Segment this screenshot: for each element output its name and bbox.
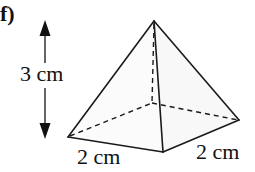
base-right-edge-label: 2 cm <box>196 141 239 163</box>
part-label: f) <box>0 3 15 25</box>
pyramid-figure: f) 3 cm 2 cm 2 cm <box>0 0 255 172</box>
base-front-edge-label: 2 cm <box>77 146 120 168</box>
arrowhead-up-icon <box>40 20 51 36</box>
height-label: 3 cm <box>19 63 64 85</box>
left-face <box>68 21 163 152</box>
arrowhead-down-icon <box>40 123 51 139</box>
right-face <box>154 21 239 152</box>
